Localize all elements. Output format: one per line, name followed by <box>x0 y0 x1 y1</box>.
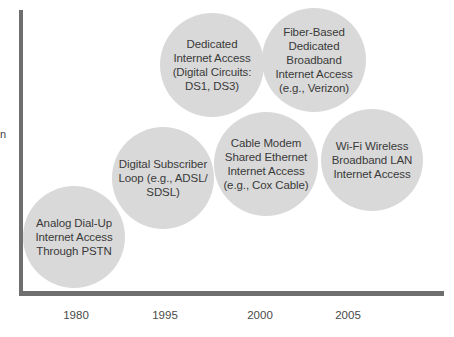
bubble-label: Wi-Fi Wireless Broadband LAN Internet Ac… <box>332 139 413 181</box>
x-tick-label: 1995 <box>152 309 178 321</box>
bubble-cable-modem: Cable Modem Shared Ethernet Internet Acc… <box>214 112 318 216</box>
y-axis <box>19 10 23 296</box>
bubble-label: Analog Dial-Up Internet Access Through P… <box>35 216 112 258</box>
internet-access-timeline-diagram: n Analog Dial-Up Internet Access Through… <box>0 0 454 337</box>
bubble-label: Cable Modem Shared Ethernet Internet Acc… <box>223 136 308 192</box>
bubble-fiber: Fiber-Based Dedicated Broadband Internet… <box>262 8 366 112</box>
x-tick-label: 2005 <box>335 309 361 321</box>
bubble-dsl: Digital Subscriber Loop (e.g., ADSL/ SDS… <box>112 127 214 229</box>
bubble-label: Digital Subscriber Loop (e.g., ADSL/ SDS… <box>118 157 207 199</box>
y-axis-label-fragment: n <box>0 128 6 140</box>
bubble-label: Dedicated Internet Access (Digital Circu… <box>173 37 252 93</box>
bubble-label: Fiber-Based Dedicated Broadband Internet… <box>275 25 352 95</box>
x-tick-label: 2000 <box>247 309 273 321</box>
x-tick-label: 1980 <box>63 309 89 321</box>
bubble-dedicated-internet: Dedicated Internet Access (Digital Circu… <box>160 13 264 117</box>
bubble-analog-dial-up: Analog Dial-Up Internet Access Through P… <box>23 186 125 288</box>
bubble-wifi: Wi-Fi Wireless Broadband LAN Internet Ac… <box>321 109 423 211</box>
x-axis <box>19 291 444 296</box>
